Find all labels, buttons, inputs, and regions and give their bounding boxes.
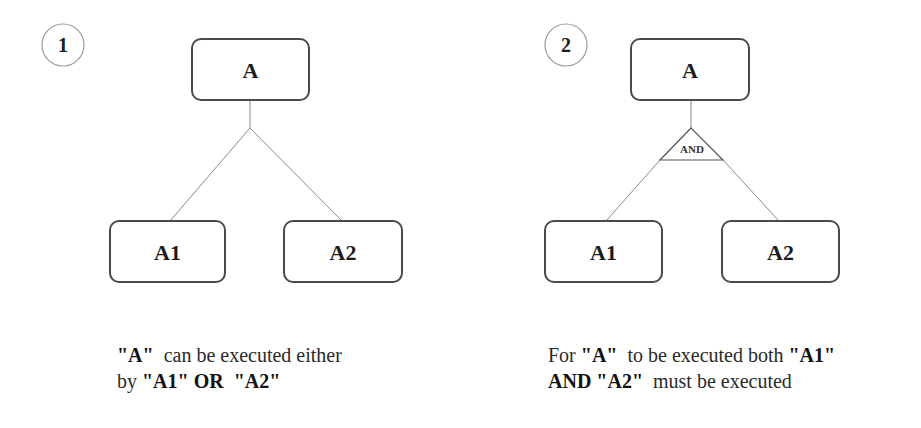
and-gate-triangle: AND: [660, 128, 723, 160]
caption-bold: "A2": [229, 370, 281, 392]
caption-bold: AND: [548, 370, 596, 392]
diagram-number: 1: [58, 34, 68, 56]
caption-bold: "A1": [142, 370, 189, 392]
or-connector-lines: [170, 100, 342, 221]
caption-bold: "A2": [596, 370, 643, 392]
caption-bold: "A": [117, 344, 154, 366]
caption-text: to be executed both: [617, 344, 788, 366]
node-root: A: [631, 39, 749, 100]
diagram-2-and: 2 AND A A1 A2: [545, 24, 839, 282]
diagram-number-badge: 2: [545, 24, 587, 66]
caption-text: must be executed: [643, 370, 792, 392]
node-child-2: A2: [284, 221, 402, 282]
caption-text: For: [548, 344, 581, 366]
caption-line-1: "A" can be executed either: [117, 342, 342, 368]
diagram-number-badge: 1: [42, 24, 84, 66]
and-gate-label: AND: [680, 143, 704, 155]
node-root: A: [192, 39, 309, 100]
caption-bold: "A": [581, 344, 618, 366]
node-child-1: A1: [545, 221, 662, 282]
node-label: A2: [767, 240, 794, 265]
node-label: A2: [330, 240, 357, 265]
caption-bold: OR: [189, 370, 229, 392]
caption-line-1: For "A" to be executed both "A1": [548, 342, 835, 368]
caption-text: by: [117, 370, 142, 392]
node-label: A: [243, 58, 259, 83]
caption-line-2: by "A1" OR "A2": [117, 368, 342, 394]
caption-line-2: AND "A2" must be executed: [548, 368, 835, 394]
caption-diagram-2: For "A" to be executed both "A1" AND "A2…: [548, 342, 835, 394]
node-label: A1: [154, 240, 181, 265]
diagram-1-or: 1 A A1 A2: [42, 24, 402, 282]
node-label: A1: [590, 240, 617, 265]
diagram-number: 2: [561, 34, 571, 56]
caption-bold: "A1": [789, 344, 836, 366]
node-label: A: [682, 58, 698, 83]
caption-diagram-1: "A" can be executed either by "A1" OR "A…: [117, 342, 342, 394]
caption-text: can be executed either: [154, 344, 342, 366]
node-child-2: A2: [722, 221, 839, 282]
node-child-1: A1: [110, 221, 225, 282]
